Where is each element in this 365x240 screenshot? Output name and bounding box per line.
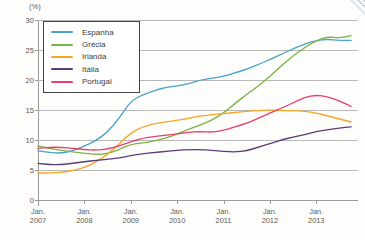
x-tick-month: Jan. bbox=[169, 207, 185, 216]
y-tick-15 bbox=[35, 110, 38, 111]
gridline-0 bbox=[38, 200, 358, 201]
x-tick-label-2007: Jan.2007 bbox=[30, 207, 46, 226]
y-tick-label-15: 15 bbox=[0, 106, 34, 115]
legend-swatch-icon bbox=[51, 44, 73, 46]
legend-item-label: Espanha bbox=[82, 28, 114, 37]
legend-swatch-icon bbox=[51, 56, 73, 58]
legend-item-label: Itália bbox=[82, 65, 99, 74]
x-tick-label-2010: Jan.2010 bbox=[169, 207, 185, 226]
x-tick-2013 bbox=[316, 200, 317, 204]
series-line-portugal bbox=[38, 96, 351, 150]
y-tick-10 bbox=[35, 140, 38, 141]
y-axis-unit-label: (%) bbox=[29, 2, 41, 11]
y-tick-30 bbox=[35, 20, 38, 21]
legend-swatch-icon bbox=[51, 31, 73, 33]
y-tick-label-20: 20 bbox=[0, 76, 34, 85]
x-tick-label-2012: Jan.2012 bbox=[262, 207, 278, 226]
legend-item-portugal[interactable]: Portugal bbox=[44, 76, 139, 88]
y-tick-5 bbox=[35, 170, 38, 171]
legend-item-espanha[interactable]: Espanha bbox=[44, 26, 139, 38]
x-tick-year: 2008 bbox=[76, 216, 92, 225]
x-tick-month: Jan. bbox=[123, 207, 139, 216]
x-tick-2009 bbox=[131, 200, 132, 204]
x-tick-2008 bbox=[84, 200, 85, 204]
x-tick-year: 2011 bbox=[216, 216, 232, 225]
x-tick-label-2008: Jan.2008 bbox=[76, 207, 92, 226]
legend-item-label: Grécia bbox=[82, 40, 106, 49]
x-tick-month: Jan. bbox=[76, 207, 92, 216]
x-tick-year: 2012 bbox=[262, 216, 278, 225]
legend-item-grécia[interactable]: Grécia bbox=[44, 38, 139, 50]
y-tick-25 bbox=[35, 50, 38, 51]
x-tick-2010 bbox=[177, 200, 178, 204]
x-tick-2012 bbox=[270, 200, 271, 204]
x-tick-month: Jan. bbox=[308, 207, 324, 216]
chart-legend: EspanhaGréciaIrlandaItáliaPortugal bbox=[43, 21, 140, 93]
x-tick-month: Jan. bbox=[30, 207, 46, 216]
x-tick-month: Jan. bbox=[216, 207, 232, 216]
x-tick-label-2011: Jan.2011 bbox=[216, 207, 232, 226]
chart-root: Gráfico: © DAE (%) 051015202530 Jan.2007… bbox=[0, 0, 365, 240]
legend-item-irlanda[interactable]: Irlanda bbox=[44, 51, 139, 63]
y-tick-label-5: 5 bbox=[0, 166, 34, 175]
y-tick-20 bbox=[35, 80, 38, 81]
x-tick-2007 bbox=[38, 200, 39, 204]
x-tick-year: 2010 bbox=[169, 216, 185, 225]
x-tick-year: 2007 bbox=[30, 216, 46, 225]
series-line-irlanda bbox=[38, 110, 351, 173]
x-tick-label-2013: Jan.2013 bbox=[308, 207, 324, 226]
legend-swatch-icon bbox=[51, 81, 73, 83]
x-tick-month: Jan. bbox=[262, 207, 278, 216]
y-tick-label-30: 30 bbox=[0, 16, 34, 25]
x-tick-year: 2013 bbox=[308, 216, 324, 225]
legend-item-label: Portugal bbox=[82, 77, 112, 86]
y-tick-label-10: 10 bbox=[0, 136, 34, 145]
x-tick-year: 2009 bbox=[123, 216, 139, 225]
scan-artifact bbox=[339, 0, 365, 22]
y-tick-label-0: 0 bbox=[0, 196, 34, 205]
x-tick-2011 bbox=[224, 200, 225, 204]
legend-item-itália[interactable]: Itália bbox=[44, 63, 139, 75]
x-tick-label-2009: Jan.2009 bbox=[123, 207, 139, 226]
legend-swatch-icon bbox=[51, 68, 73, 70]
legend-item-label: Irlanda bbox=[82, 52, 106, 61]
y-tick-label-25: 25 bbox=[0, 46, 34, 55]
